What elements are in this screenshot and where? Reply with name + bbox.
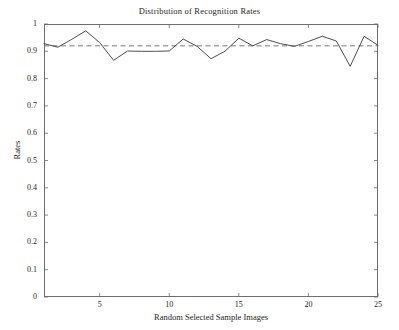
y-tick-label: 0.9	[5, 46, 37, 55]
y-tick-label: 0.3	[5, 210, 37, 219]
chart-figure: Distribution of Recognition Rates 00.10.…	[0, 0, 399, 330]
x-axis-label: Random Selected Sample Images	[44, 312, 378, 322]
y-tick-label: 0.7	[5, 101, 37, 110]
x-tick-label: 15	[224, 300, 254, 309]
y-tick-label: 0.8	[5, 74, 37, 83]
y-tick-label: 0.2	[5, 237, 37, 246]
recognition-rate-line	[44, 31, 378, 66]
y-tick-label: 1	[5, 19, 37, 28]
x-tick-label: 5	[85, 300, 115, 309]
y-tick-label: 0.1	[5, 265, 37, 274]
y-axis-ticks	[44, 24, 378, 297]
y-tick-label: 0.4	[5, 183, 37, 192]
y-axis-label: Rates	[12, 120, 22, 180]
chart-canvas	[0, 0, 399, 330]
y-tick-label: 0	[5, 292, 37, 301]
x-axis-ticks	[100, 24, 378, 297]
x-tick-label: 25	[363, 300, 393, 309]
x-tick-label: 10	[154, 300, 184, 309]
x-tick-label: 20	[293, 300, 323, 309]
